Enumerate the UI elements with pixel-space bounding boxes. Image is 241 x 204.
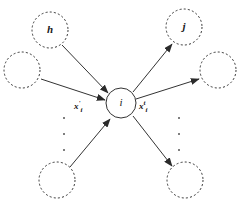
node-left-middle[interactable] <box>4 52 40 88</box>
node-i-center-label: i <box>101 97 141 108</box>
edge-i-to-right <box>136 79 199 99</box>
edge-i-to-j <box>133 44 172 92</box>
edge-bottomleft-to-i <box>70 119 110 167</box>
label-incoming-features: x'i <box>74 100 82 114</box>
ellipsis-dot <box>178 133 180 135</box>
ellipsis-dot <box>63 149 65 151</box>
node-j-label: j <box>164 21 204 32</box>
node-bottom-left[interactable] <box>39 162 75 198</box>
ellipsis-dot <box>63 133 65 135</box>
graph-diagram-canvas: hij x'i xti <box>0 0 241 204</box>
node-right-middle[interactable] <box>200 52 236 88</box>
edge-left-to-i <box>41 79 105 100</box>
node-h-label: h <box>30 24 70 35</box>
label-outgoing-features: xti <box>139 100 147 114</box>
node-bottom-right[interactable] <box>167 162 203 198</box>
ellipsis-dot <box>63 117 65 119</box>
ellipsis-right <box>177 117 181 151</box>
edge-h-to-i <box>62 45 108 93</box>
ellipsis-left <box>62 117 66 151</box>
ellipsis-dot <box>178 149 180 151</box>
edge-i-to-bottomright <box>133 116 172 166</box>
ellipsis-dot <box>178 117 180 119</box>
